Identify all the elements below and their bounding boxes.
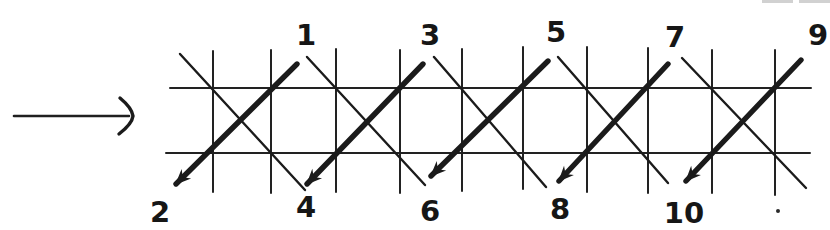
scan-edge-mark	[762, 0, 793, 3]
number-label-8: 8	[550, 192, 570, 226]
number-label-1: 1	[296, 18, 316, 52]
scan-edge-mark	[799, 0, 830, 3]
number-sequence-diagram: 13579246810	[0, 0, 830, 230]
number-label-6: 6	[420, 194, 440, 228]
number-label-7: 7	[665, 20, 685, 54]
number-label-2: 2	[150, 195, 170, 229]
step-arrow-9-to-10	[686, 60, 801, 181]
number-label-10: 10	[664, 196, 704, 230]
number-label-4: 4	[296, 190, 316, 224]
step-arrow-1-to-2	[176, 64, 297, 184]
hand-drawn-figure: 13579246810	[0, 0, 830, 230]
step-arrow-3-to-4	[307, 64, 423, 184]
number-label-3: 3	[420, 18, 440, 52]
stray-dot	[776, 209, 780, 213]
number-label-9: 9	[808, 18, 828, 52]
step-arrow-5-to-6	[431, 61, 548, 176]
number-label-5: 5	[546, 15, 566, 49]
